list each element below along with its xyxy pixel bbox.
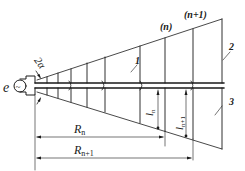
source-label: e	[3, 80, 9, 95]
R-n-label: Rn	[73, 122, 85, 137]
l-n-label: ln	[143, 109, 157, 116]
element-n1-label: (n+1)	[184, 9, 207, 21]
arrowhead-R-n-right	[159, 136, 164, 139]
svg-text:ln+1: ln+1	[173, 115, 187, 130]
arrowhead-R-n1-right	[187, 157, 192, 160]
antenna-diagram: e ~ 2α (n) (n+1) 1 2 3 ln ln+1 Rn Rn+1	[0, 0, 245, 171]
callout-2-label: 2	[228, 41, 234, 52]
callout-1-leader	[131, 65, 137, 72]
arrowhead-R-n-left	[36, 136, 41, 139]
callout-2-leader	[223, 52, 230, 60]
element-n-label: (n)	[160, 21, 172, 33]
lower-boundary-line	[37, 92, 222, 149]
callout-3-label: 3	[228, 96, 234, 107]
callout-3-leader	[215, 106, 222, 115]
angle-arrowhead-top	[37, 74, 41, 79]
R-n1-label: Rn+1	[73, 143, 94, 158]
source-lead	[20, 76, 35, 83]
marker-l-n1-bottom	[185, 135, 188, 138]
callout-1-label: 1	[135, 55, 140, 66]
marker-l-n-bottom	[157, 127, 160, 130]
source-symbol: ~	[16, 82, 21, 92]
angle-arrowhead-bottom	[38, 97, 42, 102]
l-n1-label: ln+1	[173, 115, 187, 130]
arrowhead-R-n1-left	[36, 157, 41, 160]
angle-label: 2α	[32, 54, 48, 70]
svg-text:ln: ln	[143, 109, 157, 116]
arrowhead-l-n-top	[157, 90, 160, 95]
upper-boundary-line	[37, 19, 222, 80]
arrowhead-l-n1-top	[185, 90, 188, 95]
